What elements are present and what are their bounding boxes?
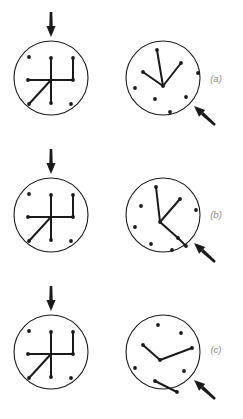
- stimulus-circle-c-dot: [49, 375, 53, 379]
- panel-a-label: (a): [210, 73, 222, 84]
- stimulus-circle-c-line: [29, 354, 51, 378]
- response-circle-a-dot: [161, 84, 165, 88]
- stimulus-circle-a-dot: [71, 78, 75, 82]
- stimulus-circle-b-dot: [27, 192, 31, 196]
- response-circle-b-dot: [158, 220, 162, 224]
- panel-a: (a): [14, 12, 222, 126]
- down-arrow-b: [46, 149, 55, 174]
- stimulus-circle-c-dot: [27, 376, 31, 380]
- down-arrow-a-shaft: [49, 12, 52, 26]
- response-circle-c-dot: [153, 379, 157, 383]
- stimulus-circle-c-dot: [71, 352, 75, 356]
- response-circle-c-dot: [190, 346, 194, 350]
- down-arrow-a: [46, 12, 55, 37]
- response-circle-b-line: [160, 199, 180, 222]
- stimulus-circle-a-dot: [49, 101, 53, 105]
- stimulus-circle-c-dot: [71, 330, 75, 334]
- response-circle-b-line: [156, 187, 160, 222]
- response-circle-b-dot: [170, 248, 174, 252]
- response-circle-b-outline: [126, 178, 200, 252]
- down-arrow-b-head: [46, 163, 55, 174]
- down-arrow-c: [46, 286, 55, 311]
- response-circle-a-dot: [153, 97, 157, 101]
- response-circle-a: [126, 41, 216, 126]
- response-circle-a-dot: [179, 61, 183, 65]
- stimulus-circle-b-dot: [49, 238, 53, 242]
- stimulus-circle-b-dot: [69, 239, 73, 243]
- stimulus-circle-b-dot: [71, 215, 75, 219]
- response-circle-b-dot: [154, 185, 158, 189]
- response-circle-b-dot: [149, 242, 153, 246]
- stimulus-circle-a: [14, 12, 88, 115]
- down-arrow-c-shaft: [49, 286, 52, 300]
- response-circle-a-dot: [196, 71, 200, 75]
- response-circle-c-dot: [133, 366, 137, 370]
- response-circle-a-dot: [168, 110, 172, 114]
- diagonal-arrow-a: [194, 106, 216, 126]
- stimulus-circle-b-line: [29, 217, 51, 241]
- response-circle-a-outline: [126, 41, 200, 115]
- response-circle-b-dot: [184, 244, 188, 248]
- figure-root: (a)(b)(c): [0, 0, 243, 419]
- response-circle-c-dot: [156, 323, 160, 327]
- panel-b-label: (b): [210, 209, 222, 220]
- response-circle-c-dot: [175, 390, 179, 394]
- down-arrow-a-head: [46, 26, 55, 37]
- stimulus-circle-a-dot: [27, 55, 31, 59]
- response-circle-c-dot: [179, 331, 183, 335]
- stimulus-circle-b-dot: [27, 239, 31, 243]
- stimulus-circle-a-dot: [27, 102, 31, 106]
- stimulus-circle-c: [14, 286, 88, 389]
- response-circle-c-outline: [126, 315, 200, 389]
- stimulus-circle-c-dot: [69, 376, 73, 380]
- response-circle-b-dot: [139, 204, 143, 208]
- stimulus-circle-b-dot: [26, 215, 30, 219]
- response-circle-a-dot: [133, 86, 137, 90]
- stimulus-circle-b-dot: [71, 193, 75, 197]
- diagonal-arrow-a-shaft: [201, 112, 216, 126]
- stimulus-circle-a-dot: [69, 102, 73, 106]
- diagonal-arrow-c-shaft: [201, 386, 216, 400]
- stimulus-circle-c-dot: [49, 330, 53, 334]
- panel-b: (b): [14, 149, 222, 263]
- response-circle-a-line: [157, 50, 163, 86]
- response-circle-c-dot: [141, 343, 145, 347]
- response-circle-b-dot: [178, 197, 182, 201]
- response-circle-c-line: [160, 348, 192, 360]
- response-circle-a-dot: [184, 95, 188, 99]
- response-circle-b-dot: [133, 225, 137, 229]
- response-circle-a-dot: [141, 70, 145, 74]
- stimulus-circle-a-dot: [49, 56, 53, 60]
- down-arrow-b-shaft: [49, 149, 52, 163]
- stimulus-circle-b-dot: [49, 193, 53, 197]
- down-arrow-c-head: [46, 300, 55, 311]
- response-circle-a-line: [163, 63, 181, 86]
- response-circle-c: [126, 315, 216, 400]
- response-circle-a-line: [143, 72, 163, 86]
- response-circle-c-line: [155, 381, 177, 392]
- diagonal-arrow-b: [194, 243, 216, 263]
- diagonal-arrow-b-shaft: [201, 249, 216, 263]
- panel-c: (c): [14, 286, 222, 400]
- figure-canvas: (a)(b)(c): [0, 0, 243, 419]
- stimulus-circle-a-line: [29, 80, 51, 104]
- stimulus-circle-c-dot: [26, 352, 30, 356]
- response-circle-a-dot: [155, 48, 159, 52]
- stimulus-circle-c-dot: [27, 329, 31, 333]
- response-circle-b: [126, 178, 216, 263]
- diagonal-arrow-c: [194, 380, 216, 400]
- response-circle-c-dot: [158, 358, 162, 362]
- response-circle-b-dot: [176, 236, 180, 240]
- stimulus-circle-b: [14, 149, 88, 252]
- stimulus-circle-a-dot: [26, 78, 30, 82]
- response-circle-c-line: [143, 345, 160, 360]
- stimulus-circle-a-dot: [71, 56, 75, 60]
- response-circle-c-dot: [182, 369, 186, 373]
- response-circle-b-dot: [194, 208, 198, 212]
- panel-c-label: (c): [210, 344, 221, 355]
- response-circle-b-line: [160, 222, 178, 238]
